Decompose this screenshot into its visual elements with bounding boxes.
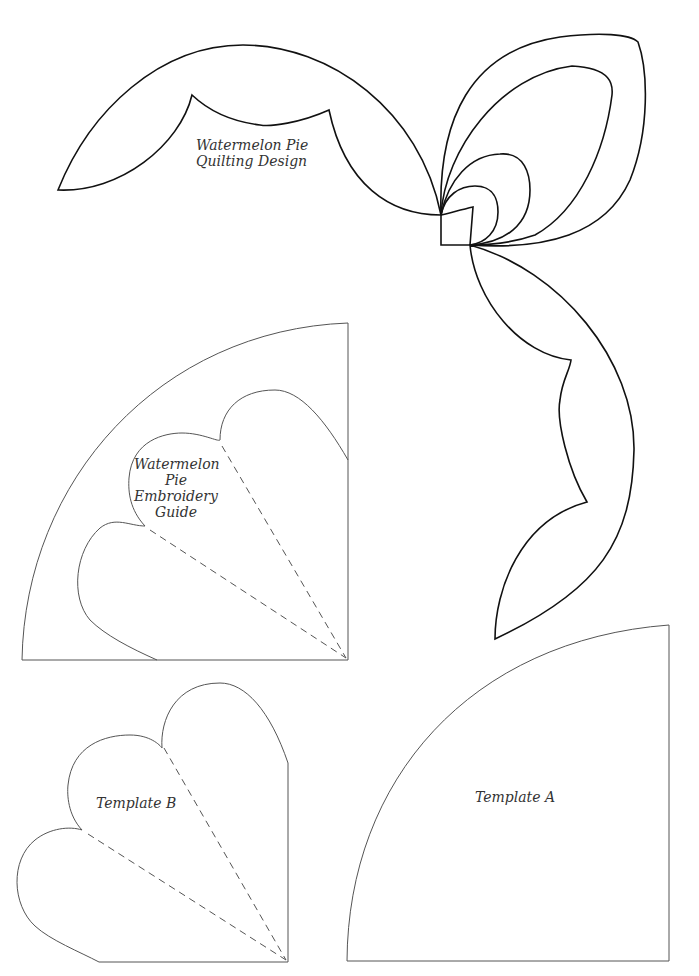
embroidery-label-line3: Embroidery [134,489,218,505]
template-b-fold-line-1 [164,748,286,960]
quilting-design-label: Watermelon Pie Quilting Design [196,138,306,169]
embroidery-guide-label: Watermelon Pie Embroidery Guide [134,457,218,521]
quilting-arc-top [58,45,441,215]
pattern-sheet [0,0,699,976]
quilting-leaf-loop-large [441,154,530,245]
embroidery-petals [78,390,348,660]
quilting-leaf-outer [441,34,646,246]
template-b [17,683,288,962]
quilting-label-line1: Watermelon Pie [196,138,306,154]
embroidery-label-line2: Pie [134,473,218,489]
embroidery-fold-line-2 [150,530,346,658]
quilting-design [58,34,645,639]
quilting-arc-right [470,245,634,639]
template-b-fold-line-2 [88,834,286,960]
quilting-label-line2: Quilting Design [196,154,306,170]
quilting-leaf-loop-small [441,186,498,245]
template-a-label: Template A [475,790,555,806]
embroidery-label-line1: Watermelon [134,457,218,473]
template-b-label: Template B [96,796,176,812]
embroidery-label-line4: Guide [134,505,218,521]
embroidery-fold-line-1 [222,446,346,658]
quilting-joint [441,207,473,245]
template-b-outline [17,683,288,962]
